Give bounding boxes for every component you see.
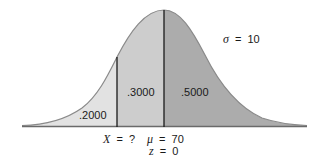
x-equals: =	[116, 133, 122, 145]
middle-area-label: .3000	[127, 87, 155, 98]
sigma-symbol: σ	[223, 32, 229, 46]
z-value-label: z = 0	[149, 145, 178, 157]
x-value-label: X = ?	[103, 133, 135, 145]
mu-equals: =	[159, 133, 165, 145]
sigma-equals: =	[235, 33, 241, 45]
x-symbol: X	[103, 132, 110, 146]
sigma-value: 10	[247, 33, 259, 45]
left-tail-area-label: .2000	[79, 110, 107, 121]
right-half-area-label: .5000	[181, 87, 209, 98]
x-value: ?	[129, 133, 135, 145]
z-value: 0	[172, 145, 178, 157]
mu-value: 70	[172, 133, 184, 145]
z-symbol: z	[149, 144, 154, 158]
region-middle	[117, 10, 164, 126]
z-equals: =	[160, 145, 166, 157]
region-right-half	[164, 10, 307, 126]
sigma-label: σ = 10	[223, 33, 260, 45]
